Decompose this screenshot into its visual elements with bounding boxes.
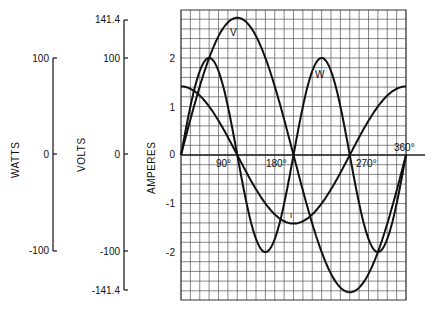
amp-tick-2: 2 [169,53,175,64]
curve-label-w: W [315,69,325,80]
volts-tick-141: 141.4 [95,14,120,25]
deg-tick-180: 180° [266,158,287,169]
curve-label-v: V [230,27,237,38]
amp-tick-neg2: -2 [166,247,175,258]
volts-scale: VOLTS 141.4 100 0 -100 -141.4 [76,14,128,296]
deg-tick-360: 360° [394,142,415,153]
volts-tick-neg100: -100 [100,246,120,257]
watts-tick-neg100: -100 [29,245,49,256]
amp-tick-1: 1 [169,102,175,113]
volts-tick-0: 0 [114,149,120,160]
volts-axis-title: VOLTS [76,137,87,172]
watts-tick-0: 0 [43,149,49,160]
watts-tick-100: 100 [32,53,49,64]
deg-tick-270: 270° [356,158,377,169]
amp-tick-0: 0 [169,149,175,160]
amperes-scale: AMPERES 2 1 0 -1 -2 [146,53,175,258]
amperes-axis-title: AMPERES [146,142,157,194]
curve-label-i: I [290,211,292,220]
watts-axis-title: WATTS [10,142,21,178]
ac-power-chart: WATTS 100 0 -100 VOLTS 141.4 100 0 -100 … [0,0,434,309]
amp-tick-neg1: -1 [166,198,175,209]
volts-tick-100: 100 [103,53,120,64]
watts-scale: WATTS 100 0 -100 [10,53,57,256]
volts-tick-neg141: -141.4 [92,285,121,296]
deg-tick-90: 90° [216,158,231,169]
